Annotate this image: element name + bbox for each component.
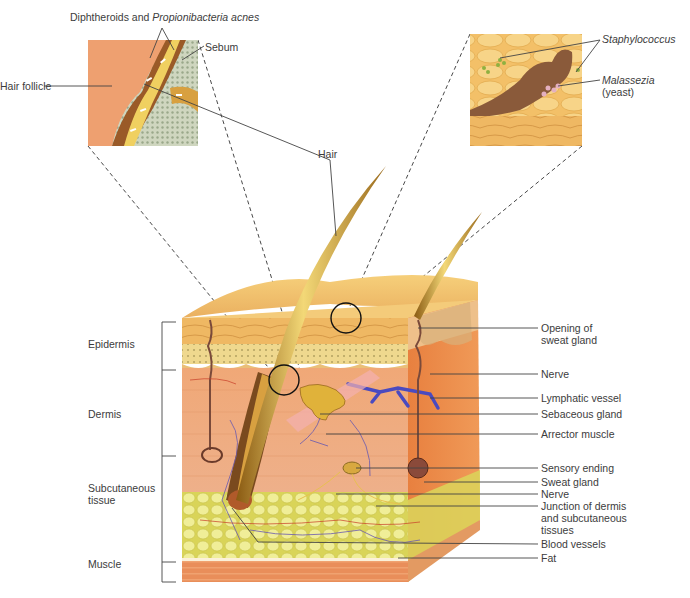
label-lymphatic-vessel: Lymphatic vessel bbox=[541, 392, 621, 404]
label-epidermis: Epidermis bbox=[88, 338, 135, 350]
label-junction-1: Junction of dermis bbox=[541, 500, 626, 512]
label-propionibacteria: Propionibacteria acnes bbox=[152, 11, 259, 23]
label-staphylococcus: Staphylococcus bbox=[602, 33, 676, 45]
label-nerve-top: Nerve bbox=[541, 368, 569, 380]
label-opening-sweat-1: Opening of bbox=[541, 322, 592, 334]
label-malassezia-note: (yeast) bbox=[602, 86, 634, 98]
skin-anatomy-diagram: Diphtheroids and Propionibacteria acnes … bbox=[0, 0, 690, 598]
inset-hair-follicle bbox=[88, 40, 198, 146]
label-malassezia: Malassezia bbox=[602, 74, 655, 86]
label-sebaceous-gland: Sebaceous gland bbox=[541, 408, 622, 420]
label-fat: Fat bbox=[541, 552, 556, 564]
label-junction-2: and subcutaneous bbox=[541, 512, 627, 524]
inset-skin-surface bbox=[470, 34, 582, 146]
label-diphtheroids: Diphtheroids and Propionibacteria acnes bbox=[70, 11, 259, 23]
label-muscle: Muscle bbox=[88, 558, 121, 570]
label-subcutaneous-2: tissue bbox=[88, 494, 115, 506]
label-hair: Hair bbox=[318, 148, 337, 160]
label-junction-3: tissues bbox=[541, 524, 574, 536]
label-staphylococcus-text: Staphylococcus bbox=[602, 33, 676, 45]
label-subcutaneous-1: Subcutaneous bbox=[88, 482, 155, 494]
label-sweat-gland: Sweat gland bbox=[541, 476, 599, 488]
label-arrector-muscle: Arrector muscle bbox=[541, 428, 615, 440]
label-dermis: Dermis bbox=[88, 408, 121, 420]
label-diphtheroids-text: Diphtheroids and bbox=[70, 11, 152, 23]
label-sebum: Sebum bbox=[205, 41, 238, 53]
label-malassezia-text: Malassezia bbox=[602, 74, 655, 86]
label-nerve-bottom: Nerve bbox=[541, 488, 569, 500]
label-opening-sweat-2: sweat gland bbox=[541, 334, 597, 346]
label-blood-vessels: Blood vessels bbox=[541, 538, 606, 550]
label-sensory-ending: Sensory ending bbox=[541, 462, 614, 474]
label-hair-follicle: Hair follicle bbox=[0, 80, 51, 92]
